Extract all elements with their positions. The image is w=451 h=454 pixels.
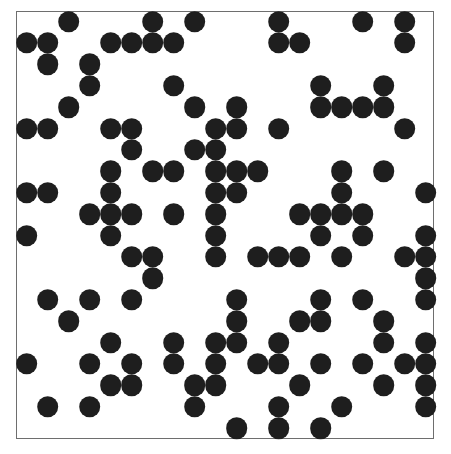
live-cell[interactable] xyxy=(310,289,332,311)
live-cell[interactable] xyxy=(205,161,227,183)
live-cell[interactable] xyxy=(205,139,227,161)
live-cell[interactable] xyxy=(415,289,437,311)
live-cell[interactable] xyxy=(373,375,395,397)
live-cell[interactable] xyxy=(100,161,122,183)
live-cell[interactable] xyxy=(310,310,332,332)
live-cell[interactable] xyxy=(184,96,206,118)
live-cell[interactable] xyxy=(373,75,395,97)
live-cell[interactable] xyxy=(289,32,311,54)
live-cell[interactable] xyxy=(205,375,227,397)
live-cell[interactable] xyxy=(121,203,143,225)
live-cell[interactable] xyxy=(268,353,290,375)
live-cell[interactable] xyxy=(37,396,59,418)
live-cell[interactable] xyxy=(205,225,227,247)
live-cell[interactable] xyxy=(100,118,122,140)
live-cell[interactable] xyxy=(142,246,164,268)
live-cell[interactable] xyxy=(331,246,353,268)
live-cell[interactable] xyxy=(331,182,353,204)
live-cell[interactable] xyxy=(415,246,437,268)
live-cell[interactable] xyxy=(331,161,353,183)
live-cell[interactable] xyxy=(310,203,332,225)
live-cell[interactable] xyxy=(331,396,353,418)
live-cell[interactable] xyxy=(394,11,416,33)
live-cell[interactable] xyxy=(37,289,59,311)
live-cell[interactable] xyxy=(352,353,374,375)
live-cell[interactable] xyxy=(394,118,416,140)
live-cell[interactable] xyxy=(100,32,122,54)
live-cell[interactable] xyxy=(352,11,374,33)
live-cell[interactable] xyxy=(100,375,122,397)
live-cell[interactable] xyxy=(415,375,437,397)
live-cell[interactable] xyxy=(373,96,395,118)
live-cell[interactable] xyxy=(310,225,332,247)
live-cell[interactable] xyxy=(289,310,311,332)
live-cell[interactable] xyxy=(184,11,206,33)
live-cell[interactable] xyxy=(310,96,332,118)
live-cell[interactable] xyxy=(310,353,332,375)
live-cell[interactable] xyxy=(226,96,248,118)
live-cell[interactable] xyxy=(247,246,269,268)
live-cell[interactable] xyxy=(226,161,248,183)
live-cell[interactable] xyxy=(352,289,374,311)
live-cell[interactable] xyxy=(163,75,185,97)
live-cell[interactable] xyxy=(184,396,206,418)
live-cell[interactable] xyxy=(184,139,206,161)
live-cell[interactable] xyxy=(16,182,38,204)
live-cell[interactable] xyxy=(163,203,185,225)
live-cell[interactable] xyxy=(226,182,248,204)
live-cell[interactable] xyxy=(226,289,248,311)
live-cell[interactable] xyxy=(415,225,437,247)
live-cell[interactable] xyxy=(16,353,38,375)
live-cell[interactable] xyxy=(205,182,227,204)
live-cell[interactable] xyxy=(268,246,290,268)
live-cell[interactable] xyxy=(142,32,164,54)
live-cell[interactable] xyxy=(289,203,311,225)
live-cell[interactable] xyxy=(16,225,38,247)
live-cell[interactable] xyxy=(226,310,248,332)
live-cell[interactable] xyxy=(100,182,122,204)
live-cell[interactable] xyxy=(373,332,395,354)
live-cell[interactable] xyxy=(142,11,164,33)
live-cell[interactable] xyxy=(79,396,101,418)
live-cell[interactable] xyxy=(163,161,185,183)
live-cell[interactable] xyxy=(16,32,38,54)
live-cell[interactable] xyxy=(268,32,290,54)
live-cell[interactable] xyxy=(163,353,185,375)
live-cell[interactable] xyxy=(289,246,311,268)
live-cell[interactable] xyxy=(100,332,122,354)
live-cell[interactable] xyxy=(352,96,374,118)
live-cell[interactable] xyxy=(121,289,143,311)
live-cell[interactable] xyxy=(58,96,80,118)
live-cell[interactable] xyxy=(331,96,353,118)
live-cell[interactable] xyxy=(226,417,248,439)
live-cell[interactable] xyxy=(121,375,143,397)
live-cell[interactable] xyxy=(415,268,437,290)
live-cell[interactable] xyxy=(142,161,164,183)
live-cell[interactable] xyxy=(184,375,206,397)
live-cell[interactable] xyxy=(310,417,332,439)
live-cell[interactable] xyxy=(373,310,395,332)
live-cell[interactable] xyxy=(352,203,374,225)
live-cell[interactable] xyxy=(226,118,248,140)
live-cell[interactable] xyxy=(79,289,101,311)
live-cell[interactable] xyxy=(58,310,80,332)
live-cell[interactable] xyxy=(205,332,227,354)
live-cell[interactable] xyxy=(100,225,122,247)
live-cell[interactable] xyxy=(58,11,80,33)
live-cell[interactable] xyxy=(142,268,164,290)
live-cell[interactable] xyxy=(16,118,38,140)
live-cell[interactable] xyxy=(79,353,101,375)
live-cell[interactable] xyxy=(121,32,143,54)
live-cell[interactable] xyxy=(121,353,143,375)
live-cell[interactable] xyxy=(205,246,227,268)
live-cell[interactable] xyxy=(205,203,227,225)
live-cell[interactable] xyxy=(268,396,290,418)
live-cell[interactable] xyxy=(205,118,227,140)
game-board[interactable] xyxy=(16,11,434,439)
live-cell[interactable] xyxy=(79,203,101,225)
live-cell[interactable] xyxy=(373,161,395,183)
live-cell[interactable] xyxy=(226,332,248,354)
live-cell[interactable] xyxy=(352,225,374,247)
live-cell[interactable] xyxy=(415,332,437,354)
live-cell[interactable] xyxy=(268,417,290,439)
